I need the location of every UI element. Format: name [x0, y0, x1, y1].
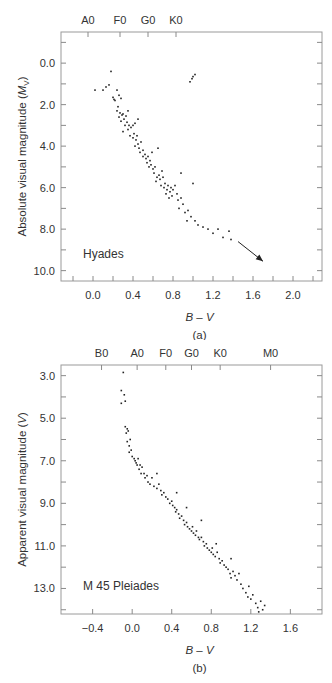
data-point — [128, 451, 130, 453]
y-axis-label: Absolute visual magnitude (MV) — [16, 76, 31, 236]
data-point — [128, 445, 130, 447]
data-point — [135, 462, 137, 464]
x-tick-label: 1.6 — [283, 622, 298, 634]
data-point — [157, 147, 159, 149]
x-tick-label: 0.0 — [85, 289, 100, 301]
data-point — [194, 74, 196, 76]
y-tick-label: 0.0 — [40, 57, 55, 69]
data-point — [176, 492, 178, 494]
data-point — [238, 573, 240, 575]
data-point — [144, 154, 146, 156]
data-point — [151, 477, 153, 479]
data-point — [255, 603, 257, 605]
data-point — [187, 526, 189, 528]
x-tick-label: 1.2 — [205, 289, 220, 301]
data-point — [210, 551, 212, 553]
data-point — [110, 71, 112, 73]
data-point — [163, 187, 165, 189]
data-point — [126, 441, 128, 443]
data-point — [142, 156, 144, 158]
data-point — [153, 486, 155, 488]
spectral-class-label: K0 — [169, 14, 182, 26]
data-point — [260, 600, 262, 602]
data-point — [189, 81, 191, 83]
y-tick-label: 11.0 — [34, 540, 55, 552]
data-point — [159, 179, 161, 181]
data-point — [186, 522, 188, 524]
data-point — [127, 129, 129, 131]
data-point — [158, 174, 160, 176]
data-point — [158, 483, 160, 485]
data-point — [227, 569, 229, 571]
data-point — [167, 185, 169, 187]
data-point — [147, 481, 149, 483]
data-point — [228, 230, 230, 232]
y-tick-label: 2.0 — [40, 99, 55, 111]
data-point — [129, 135, 131, 137]
data-point — [145, 158, 147, 160]
y-tick-label: 7.0 — [40, 455, 55, 467]
data-point — [124, 400, 126, 402]
data-point — [123, 118, 125, 120]
data-point — [187, 210, 189, 212]
data-point — [122, 131, 124, 133]
data-point — [154, 166, 156, 168]
data-point — [160, 490, 162, 492]
arrowhead-icon — [256, 255, 263, 262]
data-point — [169, 503, 171, 505]
panel-label: (b) — [192, 662, 206, 674]
data-point — [112, 97, 114, 99]
figure: 0.00.40.81.21.62.00.02.04.06.08.010.0A0F… — [0, 0, 332, 683]
data-point — [189, 528, 191, 530]
data-point — [223, 564, 225, 566]
data-point — [139, 152, 141, 154]
data-point — [113, 99, 115, 101]
data-point — [186, 220, 188, 222]
data-point — [134, 460, 136, 462]
data-point — [230, 577, 232, 579]
data-point — [134, 123, 136, 125]
data-point — [116, 110, 118, 112]
data-point — [236, 579, 238, 581]
hyades-hr-diagram: 0.00.40.81.21.62.00.02.04.06.08.010.0A0F… — [0, 0, 332, 340]
x-axis-label: B – V — [185, 311, 214, 323]
data-point — [123, 394, 125, 396]
data-point — [197, 224, 199, 226]
data-point — [117, 106, 119, 108]
data-point — [120, 120, 122, 122]
data-point — [136, 135, 138, 137]
data-point — [171, 195, 173, 197]
data-point — [225, 566, 227, 568]
data-point — [131, 456, 133, 458]
data-point — [262, 609, 264, 611]
y-tick-label: 4.0 — [40, 140, 55, 152]
data-point — [137, 458, 139, 460]
data-point — [178, 513, 180, 515]
data-point — [116, 89, 118, 91]
spectral-class-label: K0 — [213, 347, 226, 359]
data-point — [156, 176, 158, 178]
data-point — [144, 477, 146, 479]
data-point — [257, 607, 259, 609]
plot-frame — [61, 365, 322, 614]
data-point — [120, 98, 122, 100]
x-tick-label: 0.8 — [165, 289, 180, 301]
x-tick-label: −0.4 — [82, 622, 104, 634]
x-tick-label: 2.0 — [285, 289, 300, 301]
data-point — [141, 466, 143, 468]
cluster-name-label: M 45 Pleiades — [83, 579, 159, 593]
data-point — [217, 228, 219, 230]
data-point — [264, 605, 266, 607]
data-point — [170, 187, 172, 189]
x-tick-label: 0.4 — [164, 622, 179, 634]
data-point — [258, 611, 260, 613]
data-point — [127, 110, 129, 112]
data-point — [191, 530, 193, 532]
data-point — [195, 534, 197, 536]
data-point — [124, 125, 126, 127]
data-point — [194, 220, 196, 222]
data-point — [230, 239, 232, 241]
data-point — [118, 116, 120, 118]
x-tick-label: 1.2 — [243, 622, 258, 634]
data-point — [186, 507, 188, 509]
